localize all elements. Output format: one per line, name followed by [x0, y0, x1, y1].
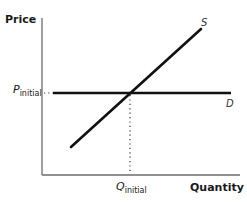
- price-initial-label: Pinitial: [13, 83, 42, 96]
- quantity-symbol: Q: [116, 180, 125, 193]
- quantity-subscript: initial: [125, 186, 147, 195]
- x-axis-label: Quantity: [190, 181, 244, 194]
- price-symbol: P: [13, 83, 20, 96]
- quantity-initial-label: Qinitial: [116, 180, 147, 193]
- supply-label: S: [201, 17, 207, 28]
- price-subscript: initial: [20, 89, 42, 98]
- diagram-canvas: [0, 0, 247, 202]
- supply-curve: [71, 29, 201, 147]
- demand-label: D: [226, 98, 234, 109]
- y-axis-label: Price: [5, 13, 36, 26]
